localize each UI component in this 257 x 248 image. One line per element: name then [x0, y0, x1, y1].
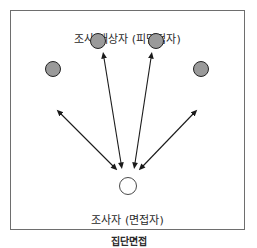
diagram-border-box: 조사 대상자 (피면접자) 조사자 (면접자)	[10, 10, 245, 230]
node-interviewer	[119, 177, 137, 195]
node-respondent-3	[148, 33, 164, 49]
node-respondent-2	[90, 33, 106, 49]
interviewer-label: 조사자 (면접자)	[11, 214, 244, 227]
edge-interviewer-to-respondent-1	[61, 114, 113, 166]
figure-caption: 집단면접	[0, 236, 257, 248]
edge-interviewer-to-respondent-4	[143, 114, 193, 166]
figure-root: 조사 대상자 (피면접자) 조사자 (면접자) 집단면접	[0, 0, 257, 248]
edge-interviewer-to-respondent-3	[135, 58, 151, 163]
arrow-layer	[11, 11, 246, 231]
node-respondent-1	[45, 61, 61, 77]
node-respondent-4	[193, 61, 209, 77]
edge-interviewer-to-respondent-2	[104, 58, 121, 163]
